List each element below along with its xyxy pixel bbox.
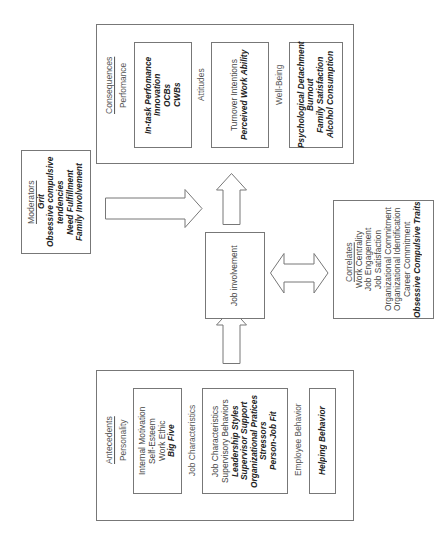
correlates-content: Correlates Work Centrality Job Engagemen…	[334, 202, 433, 317]
well-being-label: Well-Being	[275, 65, 285, 105]
personality-items: Internal Motivation Self-Esteem Work Eth…	[134, 389, 181, 493]
antecedents-title: Antecedents	[105, 416, 115, 464]
job-involvement-content: Job involvement	[206, 233, 264, 318]
job-involvement-correlates-arrow	[270, 253, 329, 294]
attitudes-items: Turnover Intentions Perceived Work Abili…	[213, 44, 267, 146]
well-being-item: Alcohol Consumption	[326, 52, 336, 139]
job-characteristics-items: Job Characteristics Supervisory Behavior…	[203, 389, 287, 493]
personality-label: Personality	[119, 419, 129, 460]
performance-label: Perfomance	[119, 62, 129, 107]
well-being-label-wrap: Well-Being	[272, 26, 288, 144]
attitudes-label: Attitudes	[197, 69, 207, 102]
consequences-title: Consequences	[105, 56, 115, 113]
job-involvement-to-consequences-arrow	[216, 173, 247, 225]
performance-label-wrap: Perfomance	[116, 26, 132, 144]
double-arrow-shape	[271, 254, 329, 294]
personality-item: Big Five	[167, 425, 177, 458]
personality-label-wrap: Personality	[116, 386, 132, 494]
job-characteristics-label-wrap: Job Characteristics	[185, 386, 201, 494]
employee-behavior-items: Helping Behavior	[310, 389, 335, 493]
employee-behavior-label-wrap: Employee Behavior	[291, 386, 307, 494]
employee-behavior-item: Helping Behavior	[318, 407, 328, 476]
performance-items: In-task Perfomance Innovation OCBs CWBs	[136, 44, 190, 146]
attitudes-label-wrap: Attitudes	[194, 26, 210, 144]
moderators-content: Moderators Grit Obsessive compulsive ten…	[22, 151, 90, 253]
employee-behavior-label: Employee Behavior	[294, 404, 304, 477]
well-being-items: Psychological Detachment Burnout Family …	[290, 44, 342, 146]
moderator-item: Family Involvement	[75, 163, 85, 241]
correlate-item: Obsessive Compulsive Traits	[413, 201, 423, 318]
moderators-arrow-shape	[106, 190, 203, 228]
attitudes-item: Perceived Work Ability	[240, 50, 250, 140]
moderators-arrow	[105, 189, 203, 229]
job-characteristics-item: Person-Job Fit	[269, 412, 279, 471]
performance-item: CWBs	[173, 83, 183, 108]
up-arrow-shape	[217, 174, 247, 225]
job-characteristics-label: Job Characteristics	[188, 404, 198, 475]
job-involvement-label: Job involvement	[230, 245, 240, 306]
